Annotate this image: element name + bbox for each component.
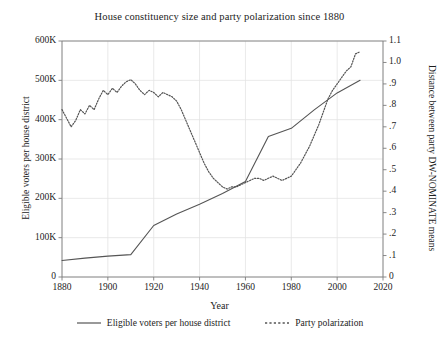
x-tick-label: 1900 [86, 282, 130, 292]
y-tick-label-right: .5 [389, 164, 419, 174]
chart-legend: Eligible voters per house districtParty … [0, 318, 439, 328]
x-tick-label: 1880 [40, 282, 84, 292]
x-axis-label: Year [0, 300, 439, 311]
y-tick-label-right: .1 [389, 250, 419, 260]
legend-item: Eligible voters per house district [76, 318, 230, 328]
y-tick-label-right: 1.1 [389, 35, 419, 45]
y-tick-label-right: .2 [389, 228, 419, 238]
x-tick-label: 1920 [132, 282, 176, 292]
x-tick-label: 2000 [315, 282, 359, 292]
y-tick-label-right: .6 [389, 142, 419, 152]
x-tick-label: 1940 [178, 282, 222, 292]
x-tick-label: 1980 [269, 282, 313, 292]
y-tick-label-left: 600K [16, 35, 56, 45]
y-tick-label-left: 100K [16, 232, 56, 242]
chart-figure: House constituency size and party polari… [0, 0, 439, 342]
chart-title: House constituency size and party polari… [0, 11, 439, 22]
y-tick-label-right: .4 [389, 185, 419, 195]
y-tick-label-right: 0 [389, 271, 419, 281]
x-tick-label: 1960 [223, 282, 267, 292]
y-tick-label-right: .9 [389, 78, 419, 88]
y-tick-label-left: 400K [16, 114, 56, 124]
solid-line-swatch-icon [76, 319, 102, 327]
y-tick-label-left: 500K [16, 74, 56, 84]
x-tick-label: 2020 [361, 282, 405, 292]
y-tick-label-left: 200K [16, 192, 56, 202]
legend-item: Party polarization [264, 318, 363, 328]
y-tick-label-left: 300K [16, 153, 56, 163]
y-tick-label-right: .3 [389, 207, 419, 217]
legend-label: Party polarization [295, 318, 363, 328]
legend-label: Eligible voters per house district [107, 318, 230, 328]
y-tick-label-right: 1.0 [389, 56, 419, 66]
series-line-1 [62, 80, 360, 260]
y-tick-label-right: .7 [389, 121, 419, 131]
dotted-line-swatch-icon [264, 319, 290, 327]
y-tick-label-right: .8 [389, 99, 419, 109]
series-line-2 [62, 52, 360, 189]
y-tick-label-left: 0 [16, 271, 56, 281]
y-axis-right-label: Distance between party DW-NOMINATE means [427, 38, 437, 278]
